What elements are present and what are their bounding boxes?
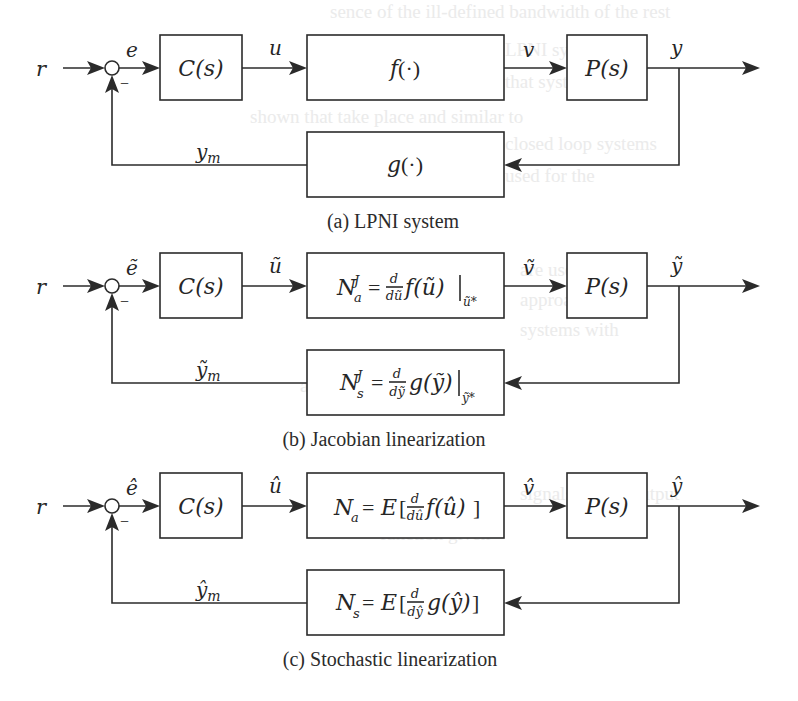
panel-b-error-label: ẽ (126, 256, 138, 280)
svg-text:d: d (411, 586, 419, 601)
panel-a-summing-junction (105, 61, 119, 75)
panel-c-summing-junction (105, 499, 119, 513)
panel-a-controller-label: C(s) (178, 56, 223, 81)
svg-text:shown that take place and simi: shown that take place and similar to (250, 106, 523, 127)
panel-c-plant-label: P(s) (584, 494, 628, 519)
panel-c-actuator-output-label: v̂ (523, 476, 535, 500)
svg-text:g(ỹ): g(ỹ) (409, 370, 453, 395)
panel-b-output-label: ỹ (670, 254, 683, 278)
panel-a-input-label: r (36, 57, 48, 81)
panel-a-actuator-label: f(·) (388, 56, 420, 81)
panel-b-caption: (b) Jacobian linearization (282, 428, 485, 451)
svg-text:dỹ: dỹ (389, 384, 405, 399)
panel-b-jacobian-linearization: r − ẽ C(s) ũ N J a = d dũ f(ũ) ũ* ṽ P(s (36, 253, 760, 451)
svg-text:]: ] (472, 590, 479, 615)
panel-a-measured-output-label: ym (195, 140, 221, 166)
panel-a-control-label: u (269, 36, 282, 60)
svg-text:d: d (393, 366, 401, 381)
svg-text:d: d (411, 491, 419, 506)
svg-text:ũ*: ũ* (463, 295, 477, 309)
panel-b-control-label: ũ (269, 254, 282, 278)
svg-text:E: E (380, 495, 397, 520)
panel-a-caption: (a) LPNI system (327, 210, 460, 233)
svg-text:s: s (357, 386, 364, 401)
svg-text:sence of the ill-defined bandw: sence of the ill-defined bandwidth of th… (330, 1, 671, 22)
panel-a-plant-label: P(s) (584, 56, 628, 81)
svg-text:[: [ (399, 495, 406, 520)
svg-text:f(ũ): f(ũ) (403, 275, 444, 300)
panel-b-minus-sign: − (120, 293, 129, 310)
svg-text:d: d (390, 271, 398, 286)
panel-c-input-label: r (36, 495, 48, 519)
svg-text:a: a (351, 510, 359, 525)
svg-text:g(ŷ): g(ŷ) (427, 590, 471, 615)
panel-a-minus-sign: − (120, 75, 129, 92)
block-diagram-figure: sence of the ill-defined bandwidth of th… (0, 0, 798, 701)
panel-c-caption: (c) Stochastic linearization (283, 648, 497, 671)
panel-b-actuator-output-label: ṽ (523, 256, 535, 280)
panel-b-plant-label: P(s) (584, 274, 628, 299)
svg-text:f(û): f(û) (424, 495, 465, 520)
svg-text:E: E (380, 590, 397, 615)
panel-c-error-label: ê (126, 476, 138, 500)
svg-text:a: a (354, 290, 362, 305)
svg-text:dũ: dũ (386, 288, 403, 303)
panel-b-measured-output-label: ỹm (195, 358, 221, 384)
svg-text:[: [ (399, 590, 406, 615)
svg-text:ỹ*: ỹ* (461, 391, 475, 405)
svg-text:=: = (368, 275, 380, 300)
svg-text:systems with: systems with (520, 319, 619, 340)
panel-c-measured-output-label: ŷm (195, 578, 221, 604)
panel-c-output-label: ŷ (670, 474, 683, 498)
svg-text:]: ] (473, 495, 480, 520)
panel-b-controller-label: C(s) (178, 274, 223, 299)
panel-a-actuator-output-label: v (523, 38, 535, 62)
panel-b-summing-junction (105, 279, 119, 293)
svg-text:s: s (353, 606, 360, 621)
panel-b-input-label: r (36, 275, 48, 299)
svg-text:dŷ: dŷ (407, 604, 423, 619)
panel-c-minus-sign: − (120, 513, 129, 530)
svg-text:dû: dû (407, 508, 424, 523)
svg-text:closed loop systems: closed loop systems (505, 133, 657, 154)
svg-text:=: = (362, 590, 374, 615)
panel-a-error-label: e (126, 38, 138, 62)
panel-c-control-label: û (269, 474, 282, 498)
panel-a-output-label: y (670, 36, 683, 60)
svg-text:=: = (371, 370, 383, 395)
panel-c-controller-label: C(s) (178, 494, 223, 519)
panel-a-sensor-label: g(·) (387, 152, 423, 177)
svg-text:=: = (362, 495, 374, 520)
